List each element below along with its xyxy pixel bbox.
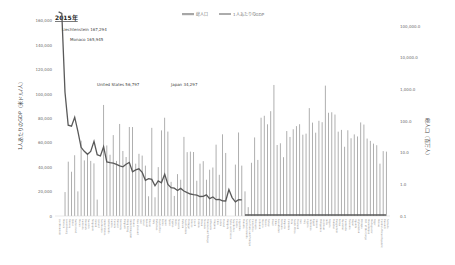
population-bar [318,121,319,216]
population-bar [222,134,223,216]
x-axis-label: India [325,219,328,225]
x-axis-label: Iceland [97,219,100,228]
x-axis-label: Ireland [94,219,97,228]
x-axis-label: Korea [161,219,164,226]
population-bar [351,138,352,216]
population-bar [180,180,181,216]
x-axis-label: Lebanon [258,219,261,230]
x-axis-label: Lithuania [209,219,212,231]
population-bar [251,163,252,216]
population-bar [212,168,213,216]
population-bar [84,160,85,216]
x-axis-label: Nepal [351,219,354,226]
population-bar [299,124,300,216]
x-axis-label: Estonia [197,219,200,228]
x-axis-label: Puerto Rico [158,219,161,233]
population-bar [338,132,339,216]
population-bar [161,130,162,216]
population-bar [328,113,329,216]
x-axis-label: Uganda [354,219,357,229]
population-bar [110,155,111,216]
x-axis-label: Iraq [303,219,306,224]
x-axis-label: Israel [142,219,145,226]
population-bar [77,191,78,216]
x-axis-label: Czech [193,219,196,227]
x-axis-labels: LiechtensteinMonacoLuxembourgNorwayQatar… [58,218,389,248]
right-axis-tick-label: 10,000.0 [400,55,418,60]
x-axis-label: Bulgaria [283,219,286,229]
population-bar [148,196,149,216]
x-axis-label: Belgium [123,219,126,229]
x-axis-label: Finland [116,219,119,228]
x-axis-label: China [274,219,277,226]
annotations: Liechtenstein 167,294Monaco 165,945Unite… [62,27,198,87]
population-bar [68,162,69,216]
x-axis-label: Philippines [319,219,322,233]
x-axis-label: Kazakhstan [277,219,280,233]
right-axis-tick-label: 0.1 [400,214,407,219]
population-bar [167,132,168,216]
right-axis-tick-label: 100.0 [400,119,412,124]
population-bar [273,85,274,216]
population-bar [103,105,104,216]
left-axis-tick-label: 140,000 [35,43,52,48]
right-axis-tick-label: 100,000.0 [400,24,421,29]
x-axis-label: San Tome and Principe [248,219,251,247]
population-bar [122,151,123,216]
x-axis-label: Oman [200,219,203,227]
population-bar [341,130,342,216]
x-axis-label: Croatia [235,219,238,228]
x-axis-label: Colombia [287,219,290,231]
population-bar [325,86,326,216]
x-axis-label: Monaco [62,219,65,229]
x-axis-label: Costa Rica [251,219,254,232]
population-bar [270,111,271,216]
x-axis-label: Qatar [71,219,74,226]
population-bar [126,157,127,216]
population-bar [363,125,364,216]
x-axis-label: Panama [242,219,245,229]
x-axis-label: Portugal [187,219,190,229]
population-bar [367,139,368,216]
population-bar [380,164,381,216]
x-axis-label: Sweden [87,219,90,229]
x-axis-label: Ukraine [315,219,318,229]
population-bar [94,163,95,216]
population-bar [373,144,374,216]
x-axis-label: Italy [152,219,155,225]
x-axis-label: Luxembourg [65,219,68,234]
x-axis-label: Viet Nam [322,219,325,231]
population-bar [119,124,120,216]
x-axis-label: Myanmar [341,219,344,230]
x-axis-label: Norway [68,219,71,229]
x-axis-label: Mexico [261,219,264,228]
x-axis-label: Poland [222,219,225,227]
population-bar [335,115,336,216]
population-bar [158,167,159,216]
population-bar [277,145,278,216]
population-bar [151,128,152,216]
right-axis-tick-label: 1,000.0 [400,87,416,92]
population-bar [216,145,217,216]
right-axis-tick-label: 1.0 [400,182,407,187]
x-axis-label: Bahrain [181,219,184,229]
population-bar [174,196,175,216]
population-bar [225,153,226,216]
x-axis-label: Algeria [306,219,309,228]
x-axis-label: Kuwait [145,219,148,227]
x-axis-label: Mozambique [367,219,370,235]
legend-bar-swatch-icon [182,13,194,15]
population-bar [71,172,72,216]
x-axis-label: San Marino [100,219,103,233]
population-bar [97,200,98,216]
x-axis-label: Burundi [383,219,386,229]
x-axis-label: United States [103,219,106,236]
population-bar [386,152,387,216]
population-bar [360,122,361,216]
x-axis-label: Malaysia [254,219,257,230]
population-gdp-chart: 総人口 1人あたりのGDP 2015年 020,00040,00060,0008… [0,0,455,265]
population-bar [296,126,297,216]
population-bar [238,132,239,216]
population-bar [135,164,136,216]
x-axis-label: South Africa [293,219,296,234]
